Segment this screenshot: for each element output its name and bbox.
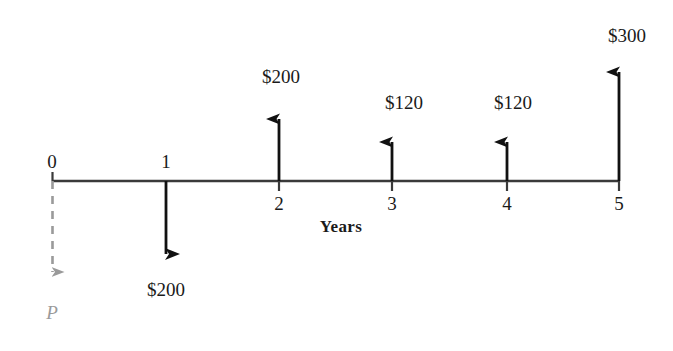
cash-flow-label-period-5: $300 xyxy=(608,26,646,45)
tick-label-2: 2 xyxy=(274,194,284,213)
tick-label-5: 5 xyxy=(614,194,624,213)
present-value-label: P xyxy=(46,303,58,322)
tick-label-0: 0 xyxy=(47,152,57,171)
cash-flow-label-period-3: $120 xyxy=(385,93,423,112)
cash-flow-label-period-2: $200 xyxy=(262,67,300,86)
tick-label-3: 3 xyxy=(387,194,397,213)
cash-flow-graphic xyxy=(0,0,673,351)
cash-flow-label-period-1: $200 xyxy=(147,280,185,299)
cash-flow-diagram: 0 1 2 3 4 5 Years P $200 $200 $120 $120 … xyxy=(0,0,673,351)
tick-label-1: 1 xyxy=(161,152,171,171)
axis-title-years: Years xyxy=(320,218,363,235)
tick-label-4: 4 xyxy=(502,194,512,213)
cash-flow-label-period-4: $120 xyxy=(494,93,532,112)
